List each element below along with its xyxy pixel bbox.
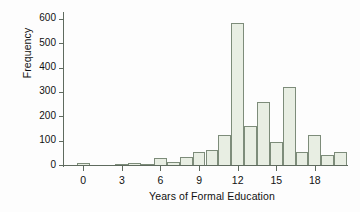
histogram-bar [270,142,283,165]
x-tick-label: 9 [196,174,202,186]
y-tick-mark [59,141,64,142]
histogram-bar [244,126,257,165]
x-tick-label: 0 [80,174,86,186]
histogram-bar [154,158,167,165]
histogram-bar [334,152,347,165]
x-tick-mark [122,166,123,171]
histogram-bar [167,162,180,165]
y-tick-label: 100 [39,134,56,145]
histogram-bar [141,164,154,166]
y-tick-mark [59,92,64,93]
x-tick-group: 0369121518 [64,166,347,190]
y-tick-mark [59,116,64,117]
histogram-bar [128,163,141,165]
x-tick-mark [160,166,161,171]
y-tick-label: 300 [39,85,56,96]
y-tick-label: 0 [50,159,56,170]
histogram-bar [283,87,296,165]
histogram-chart: Frequency 0100200300400500600 0369121518… [0,0,360,212]
x-tick-label: 12 [232,174,244,186]
histogram-bar [206,150,219,165]
y-tick-label: 200 [39,110,56,121]
histogram-bar [321,155,334,165]
histogram-bar [296,152,309,165]
y-tick-mark [59,19,64,20]
x-tick-label: 18 [309,174,321,186]
histogram-bar [180,157,193,165]
x-tick-mark [315,166,316,171]
histogram-bar [193,152,206,165]
x-tick-mark [83,166,84,171]
x-axis-title: Years of Formal Education [64,190,360,202]
y-tick-label: 500 [39,37,56,48]
y-tick-mark [59,68,64,69]
x-tick-label: 3 [119,174,125,186]
histogram-bar [218,135,231,165]
y-tick-label: 600 [39,12,56,23]
x-tick-label: 6 [158,174,164,186]
x-tick-mark [199,166,200,171]
x-tick-mark [238,166,239,171]
histogram-bar [257,102,270,165]
histogram-bar [77,163,90,165]
plot-area: 0100200300400500600 [64,14,347,165]
y-tick-label: 400 [39,61,56,72]
y-tick-mark [59,43,64,44]
x-tick-label: 15 [270,174,282,186]
y-axis-title: Frequency [21,8,35,98]
histogram-bar [231,23,244,165]
histogram-bar [308,135,321,165]
histogram-bar [115,164,128,166]
x-tick-mark [276,166,277,171]
